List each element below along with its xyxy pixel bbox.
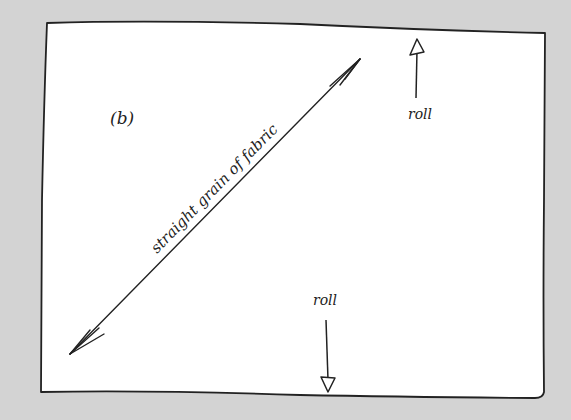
fabric-sheet — [41, 22, 545, 398]
roll-top-label: roll — [408, 106, 432, 122]
fabric-layout-diagram: (b) straight grain of fabric roll roll — [0, 0, 571, 420]
roll-bottom-label: roll — [313, 292, 337, 308]
panel-label: (b) — [110, 108, 134, 128]
